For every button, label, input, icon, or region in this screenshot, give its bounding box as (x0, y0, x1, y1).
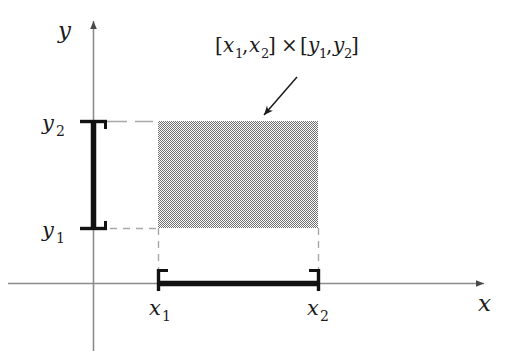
tick-label-y2-sub: 2 (56, 123, 65, 139)
annot-open-bracket-2: [ (300, 33, 308, 57)
tick-label-x1: x 1 (149, 296, 171, 324)
annot-x2: x (249, 33, 260, 57)
tick-label-x1-base: x (149, 296, 161, 320)
tick-label-y2: y 2 (41, 111, 65, 139)
cartesian-product-diagram: y x y 2 y 1 x 1 x 2 [ x 1 , x 2 ] × [ (0, 0, 522, 351)
tick-label-x2: x 2 (307, 296, 329, 324)
x-axis-label: x (478, 290, 491, 316)
annot-comma-1: , (242, 33, 248, 57)
tick-label-y1-sub: 1 (56, 230, 65, 246)
product-annotation: [ x 1 , x 2 ] × [ y 1 , y 2 ] (215, 33, 359, 61)
annot-close-bracket-2: ] (351, 33, 359, 57)
y-axis-label: y (57, 17, 72, 43)
tick-label-y2-base: y (41, 111, 55, 135)
product-rectangle (158, 121, 318, 228)
tick-label-x2-sub: 2 (320, 308, 329, 324)
tick-label-y1: y 1 (41, 218, 65, 246)
tick-label-y1-base: y (41, 218, 55, 242)
annot-close-bracket: ] (268, 33, 276, 57)
annot-x1: x (223, 33, 234, 57)
annotation-pointer-arrow (264, 77, 297, 115)
annot-comma-2: , (326, 33, 332, 57)
annot-open-bracket: [ (215, 33, 223, 57)
tick-label-x2-base: x (307, 296, 319, 320)
annot-times-symbol: × (281, 33, 298, 57)
tick-label-x1-sub: 1 (162, 308, 171, 324)
